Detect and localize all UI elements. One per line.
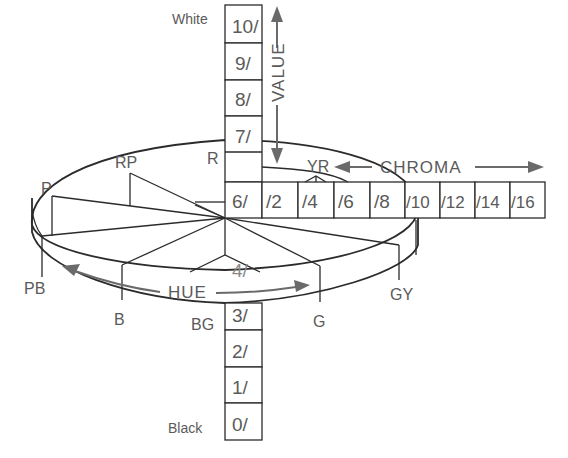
chroma-cell-10: /10 <box>406 193 430 212</box>
hue-label-pb: PB <box>24 280 45 297</box>
value-column-lower: 4/ 3/ 2/ 1/ 0/ <box>225 260 262 440</box>
hue-label-r: R <box>207 150 219 167</box>
value-cell-7: 7/ <box>235 126 252 147</box>
value-cell-10: 10/ <box>232 16 259 37</box>
hue-axis-label: HUE <box>168 283 207 302</box>
hue-label-rp: RP <box>115 154 137 171</box>
hue-label-b: B <box>114 311 125 328</box>
value-cell-0: 0/ <box>232 414 249 435</box>
hue-label-bg: BG <box>191 316 214 333</box>
hue-label-gy: GY <box>390 286 413 303</box>
value-cell-2: 2/ <box>232 341 249 362</box>
chroma-cell-2: /2 <box>266 191 282 212</box>
value-cell-8: 8/ <box>235 89 252 110</box>
chroma-cell-12: /12 <box>441 193 465 212</box>
value-cell-9: 9/ <box>235 53 252 74</box>
chroma-cell-16: /16 <box>511 193 535 212</box>
hue-label-p: P <box>41 180 52 197</box>
value-axis-label: VALUE <box>269 43 288 103</box>
chroma-cell-14: /14 <box>476 193 500 212</box>
chroma-cell-4: /4 <box>302 191 318 212</box>
value-cell-4: 4/ <box>232 260 249 281</box>
value-cell-1: 1/ <box>232 377 249 398</box>
chroma-axis-label: CHROMA <box>380 158 462 177</box>
value-axis-arrow: VALUE <box>269 6 288 164</box>
white-label: White <box>172 11 208 27</box>
chroma-cell-8: /8 <box>374 191 390 212</box>
value-cell-3: 3/ <box>232 305 249 326</box>
munsell-diagram: 10/ 9/ 8/ 7/ 6/ /2 /4 /6 /8 /10 /12 /14 … <box>0 0 568 458</box>
hue-axis-arrow: HUE <box>62 264 310 302</box>
value-column-upper: 10/ 9/ 8/ 7/ 6/ <box>225 5 262 218</box>
value-cell-6: 6/ <box>232 191 249 212</box>
chroma-cell-6: /6 <box>338 191 354 212</box>
hue-label-g: G <box>313 313 325 330</box>
chroma-axis-arrow: CHROMA <box>334 158 544 177</box>
black-label: Black <box>168 420 203 436</box>
hue-label-yr: YR <box>307 158 329 175</box>
